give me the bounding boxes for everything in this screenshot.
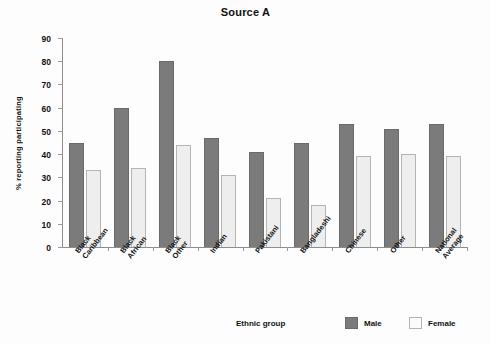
x-axis-title: Ethnic group (236, 319, 285, 328)
y-axis-tick-label: 0 (46, 243, 51, 253)
y-axis-tick-label: 20 (42, 197, 51, 207)
x-axis-tick (467, 247, 468, 251)
legend-label-male: Male (364, 319, 382, 328)
y-axis-tick-label: 30 (42, 173, 51, 183)
bar-male (339, 124, 354, 247)
bar-group (198, 38, 243, 247)
bar-group (422, 38, 467, 247)
y-axis-title: % reporting participating (14, 78, 28, 208)
y-axis-tick-label: 60 (42, 104, 51, 114)
bar-group (377, 38, 422, 247)
bar-group (243, 38, 288, 247)
bar-group (108, 38, 153, 247)
legend-swatch-male (345, 317, 358, 329)
bars-layer (63, 38, 467, 247)
y-axis-tick-label: 70 (42, 80, 51, 90)
bar-male (204, 138, 219, 247)
y-axis-tick: 0 (58, 247, 63, 248)
bar-group (332, 38, 377, 247)
legend-item-male: Male (345, 317, 382, 329)
bar-chart: Source A % reporting participating 01020… (0, 0, 491, 345)
bar-group (153, 38, 198, 247)
bar-male (159, 61, 174, 247)
legend-label-female: Female (428, 319, 456, 328)
x-axis-category-labels: BlackCaribbeanBlackAfricanBlackOtherIndi… (62, 250, 467, 308)
bar-male (249, 152, 264, 247)
chart-legend: Ethnic group Male Female (0, 316, 491, 336)
bar-female (401, 154, 416, 247)
bar-male (429, 124, 444, 247)
bar-male (69, 143, 84, 248)
y-axis-tick-label: 10 (42, 220, 51, 230)
legend-item-female: Female (409, 317, 456, 329)
bar-female (176, 145, 191, 247)
y-axis-tick-label: 40 (42, 150, 51, 160)
y-axis-tick-label: 50 (42, 127, 51, 137)
bar-male (294, 143, 309, 248)
bar-male (384, 129, 399, 247)
bar-male (114, 108, 129, 247)
y-axis-tick-label: 80 (42, 57, 51, 67)
legend-swatch-female (409, 317, 422, 329)
bar-group (63, 38, 108, 247)
plot-area: 0102030405060708090 (62, 38, 467, 248)
y-axis-tick-label: 90 (42, 34, 51, 44)
chart-title: Source A (0, 6, 491, 18)
